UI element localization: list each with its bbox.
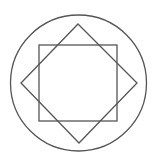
axis-aligned-square (39, 45, 117, 121)
diagram-canvas (0, 0, 154, 160)
outer-circle (11, 15, 147, 151)
